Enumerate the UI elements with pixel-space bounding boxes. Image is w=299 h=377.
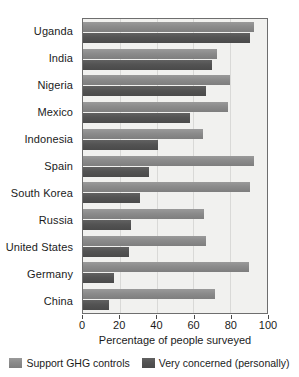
bar [83,22,254,32]
legend-label: Very concerned (personally) [159,357,290,369]
x-axis-tick-label: 40 [150,319,162,331]
y-axis-label: Mexico [0,99,78,126]
y-axis-label: India [0,45,78,72]
x-axis-tick-label: 60 [187,319,199,331]
bar-group [83,19,267,46]
bar-chart: UgandaIndiaNigeriaMexicoIndonesiaSpainSo… [0,0,299,377]
bar [83,156,254,166]
y-axis-label: Germany [0,260,78,287]
bar [83,220,131,230]
bar [83,193,140,203]
chart-legend: Support GHG controlsVery concerned (pers… [0,357,299,369]
bar [83,300,109,310]
bar [83,140,158,150]
y-axis-label: United States [0,233,78,260]
bar [83,247,129,257]
bar [83,273,114,283]
bar-group [83,46,267,73]
bar [83,49,217,59]
x-axis-title: Percentage of people surveyed [82,334,268,346]
y-axis-label: Uganda [0,18,78,45]
bar [83,75,230,85]
bar-group [83,72,267,99]
bar [83,102,228,112]
x-axis-tick-label: 20 [113,319,125,331]
bar-group [83,153,267,180]
legend-item: Support GHG controls [9,357,129,369]
bar-groups [83,19,267,313]
bar [83,60,212,70]
bar [83,262,249,272]
x-axis-tick-label: 80 [225,319,237,331]
bar-group [83,233,267,260]
bar [83,113,190,123]
bar-group [83,99,267,126]
bar [83,129,203,139]
x-axis-tick-label: 100 [259,319,277,331]
y-axis-label: South Korea [0,179,78,206]
y-axis-label: Indonesia [0,126,78,153]
x-axis-tick-labels: 020406080100 [0,319,299,333]
legend-item: Very concerned (personally) [142,357,290,369]
plot-area [82,18,268,314]
bar-group [83,260,267,287]
light-gray-swatch [9,358,22,368]
bar [83,182,250,192]
y-axis-label: Spain [0,153,78,180]
y-axis-label: China [0,287,78,314]
bar [83,33,250,43]
bar [83,86,206,96]
bar [83,289,215,299]
bar-group [83,126,267,153]
legend-label: Support GHG controls [26,357,129,369]
y-axis-label: Russia [0,206,78,233]
bar [83,167,149,177]
bar [83,236,206,246]
x-axis-tick-label: 0 [79,319,85,331]
bar-group [83,206,267,233]
bar-group [83,179,267,206]
y-axis-label: Nigeria [0,72,78,99]
bar-group [83,286,267,313]
y-axis-category-labels: UgandaIndiaNigeriaMexicoIndonesiaSpainSo… [0,18,78,314]
dark-gray-swatch [142,358,155,368]
bar [83,209,204,219]
